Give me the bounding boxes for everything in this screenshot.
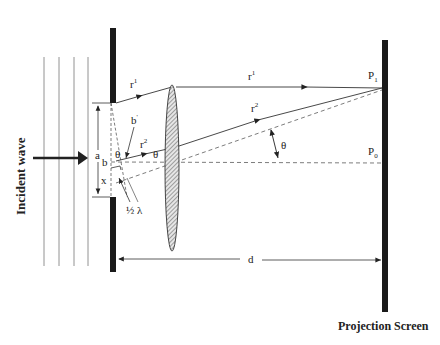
ray-r1	[116, 87, 382, 103]
label-r1-far: r1	[248, 69, 256, 82]
label-b-prime: b'	[131, 113, 138, 126]
projection-screen	[382, 40, 388, 312]
label-d: d	[248, 253, 254, 265]
theta-slit: θ	[115, 148, 120, 160]
label-r1-near: r1	[130, 77, 138, 90]
slit-barrier-top	[110, 28, 116, 103]
label-x: x	[101, 174, 107, 186]
theta-angle-arrow	[271, 130, 278, 158]
b-prime-pointer	[126, 127, 134, 158]
label-half-lambda: ½ λ	[126, 204, 143, 216]
diffraction-diagram: Incident wave a b x r1 r1 r2 r2 b' θ	[0, 0, 440, 345]
label-b: b	[102, 156, 108, 168]
right-angle-mark	[111, 166, 121, 170]
ray-dashed-lower	[116, 90, 382, 183]
label-r2-near: r2	[140, 137, 148, 150]
optical-axis	[111, 162, 382, 163]
incident-wave-label: Incident wave	[13, 137, 28, 215]
slit-barrier-bottom	[110, 197, 116, 272]
theta-screen: θ	[281, 139, 286, 151]
projection-screen-label: Projection Screen	[338, 319, 429, 333]
theta-ray: θ	[153, 148, 158, 160]
label-p0: P0	[368, 145, 378, 160]
converging-lens	[165, 85, 179, 251]
label-a: a	[95, 149, 100, 161]
label-r2-far: r2	[251, 101, 259, 114]
label-p1: P1	[368, 69, 378, 84]
incident-arrow	[33, 151, 88, 165]
